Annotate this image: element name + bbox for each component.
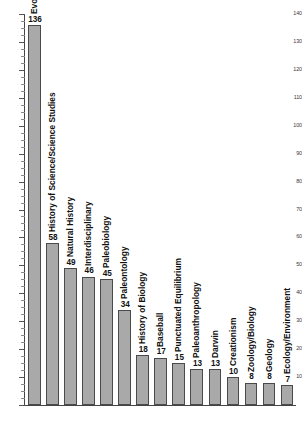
bar[interactable] (154, 358, 167, 405)
plot-area: 136Evolutionary Theory58History of Scien… (25, 14, 296, 405)
bar[interactable] (227, 377, 240, 405)
bar-category-label: Paleobiology (101, 216, 111, 268)
bar-value-label: 8 (244, 373, 260, 381)
bar-group[interactable]: 17Baseball (152, 14, 170, 405)
bar-category-label: Baseball (155, 312, 165, 346)
bar-group[interactable]: 13Paleoanthropology (188, 14, 206, 405)
bar[interactable] (28, 25, 41, 405)
bar-category-label: Paleontology (119, 246, 129, 299)
bar[interactable] (209, 369, 222, 405)
bar-value-label: 13 (208, 360, 224, 368)
bar-value-label: 13 (189, 360, 205, 368)
bar-group[interactable]: 8Geology (261, 14, 279, 405)
bar[interactable] (46, 243, 59, 405)
bar-group[interactable]: 8Zoology/Biology (243, 14, 261, 405)
bar-group[interactable]: 136Evolutionary Theory (26, 14, 44, 405)
bar-value-label: 58 (45, 234, 61, 242)
bar-value-label: 18 (135, 346, 151, 354)
bar-category-label: Geology (264, 338, 274, 372)
bar-category-label: Ecology/Environment (282, 288, 292, 374)
bar[interactable] (172, 363, 185, 405)
bar-group[interactable]: 34Paleontology (116, 14, 134, 405)
bar-value-label: 136 (27, 16, 43, 24)
bar[interactable] (263, 383, 276, 405)
bar[interactable] (245, 383, 258, 405)
bar-value-label: 34 (117, 301, 133, 309)
bar-category-label: Natural History (65, 197, 75, 257)
bar-category-label: History of Science/Science Studies (47, 92, 57, 232)
y-axis-tick (19, 405, 25, 406)
bar[interactable] (118, 310, 131, 405)
bar-group[interactable]: 15Punctuated Equilibrium (170, 14, 188, 405)
bar-group[interactable]: 13Darwin (207, 14, 225, 405)
bar-value-label: 7 (280, 376, 296, 384)
bar-value-label: 10 (226, 368, 242, 376)
bar[interactable] (136, 355, 149, 405)
bar-category-label: Interdisciplinary (83, 201, 93, 266)
bar-value-label: 45 (99, 270, 115, 278)
bar-value-label: 46 (81, 267, 97, 275)
bar-chart: 102030405060708090100110120130140 136Evo… (0, 0, 302, 428)
bar-category-label: Punctuated Equilibrium (173, 258, 183, 352)
bar-value-label: 17 (153, 348, 169, 356)
bar-category-label: Paleoanthropology (191, 282, 201, 358)
bar-value-label: 49 (63, 259, 79, 267)
bar-group[interactable]: 18History of Biology (134, 14, 152, 405)
bar[interactable] (100, 279, 113, 405)
bar-value-label: 8 (262, 373, 278, 381)
bar[interactable] (64, 268, 77, 405)
bar-group[interactable]: 49Natural History (62, 14, 80, 405)
bar-group[interactable]: 45Paleobiology (98, 14, 116, 405)
x-axis-line (24, 405, 296, 406)
bar-category-label: History of Biology (137, 272, 147, 344)
bar-group[interactable]: 46Interdisciplinary (80, 14, 98, 405)
bar-value-label: 15 (171, 354, 187, 362)
bar-category-label: Creationism (228, 318, 238, 366)
bar-category-label: Zoology/Biology (246, 306, 256, 372)
bar-group[interactable]: 7Ecology/Environment (279, 14, 297, 405)
bar-category-label: Evolutionary Theory (29, 0, 39, 14)
bar[interactable] (82, 277, 95, 405)
bar-category-label: Darwin (210, 330, 220, 358)
bar-group[interactable]: 58History of Science/Science Studies (44, 14, 62, 405)
bar-group[interactable]: 10Creationism (225, 14, 243, 405)
bar[interactable] (190, 369, 203, 405)
bar[interactable] (281, 385, 294, 405)
